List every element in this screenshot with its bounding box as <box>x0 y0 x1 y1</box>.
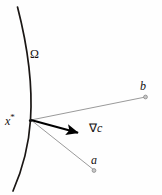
gradient-function-label: c <box>97 121 102 135</box>
gradient-vector-arrow <box>31 120 78 133</box>
point-label-b: b <box>140 80 146 92</box>
point-label-x-star: x* <box>5 113 15 127</box>
nabla-icon: ∇ <box>89 121 97 135</box>
vector-label-grad-c: ∇c <box>89 122 102 134</box>
figure-canvas: Ω x* ∇c a b <box>0 0 162 195</box>
point-label-a: a <box>91 154 97 166</box>
region-label-omega: Ω <box>30 48 39 60</box>
x-star-point-marker <box>29 119 32 122</box>
diagram-svg <box>0 0 162 195</box>
constraint-boundary-curve <box>13 7 31 191</box>
point-b-marker <box>144 95 148 99</box>
ray-to-point-b <box>31 97 146 120</box>
x-star-superscript: * <box>10 112 14 122</box>
point-a-marker <box>92 169 96 173</box>
